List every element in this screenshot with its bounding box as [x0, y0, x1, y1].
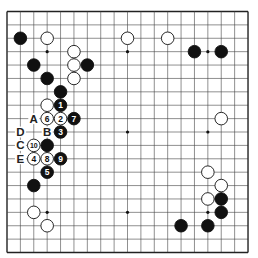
black-stone-move-5[interactable]: 5 — [41, 166, 54, 179]
white-stone-move-6[interactable]: 6 — [41, 112, 54, 125]
stone-disc — [68, 59, 81, 72]
stone-disc — [121, 32, 134, 45]
stone-disc — [68, 45, 81, 58]
point-marker-a[interactable]: A — [28, 113, 39, 125]
stone-disc — [202, 219, 215, 232]
stone-disc — [27, 59, 40, 72]
move-number: 7 — [72, 114, 77, 124]
white-stone[interactable] — [41, 32, 54, 45]
stone-disc — [81, 59, 94, 72]
white-stone-move-2[interactable]: 2 — [54, 112, 67, 125]
move-number: 3 — [58, 127, 63, 137]
black-stone[interactable] — [175, 219, 188, 232]
stone-disc — [41, 32, 54, 45]
black-stone[interactable] — [41, 72, 54, 85]
move-number: 8 — [45, 154, 50, 164]
marker-letter: C — [16, 139, 24, 151]
white-stone[interactable] — [68, 59, 81, 72]
white-stone[interactable] — [215, 112, 228, 125]
stone-disc — [27, 179, 40, 192]
star-point — [126, 130, 129, 133]
stone-disc — [175, 219, 188, 232]
stone-disc — [215, 179, 228, 192]
white-stone[interactable] — [27, 206, 40, 219]
black-stone-move-7[interactable]: 7 — [68, 112, 81, 125]
stone-disc — [41, 219, 54, 232]
white-stone[interactable] — [202, 166, 215, 179]
black-stone-move-9[interactable]: 9 — [54, 152, 67, 165]
move-number: 6 — [45, 114, 50, 124]
move-number: 4 — [31, 154, 36, 164]
marker-letter: A — [30, 113, 38, 125]
stone-disc — [202, 166, 215, 179]
white-stone[interactable] — [68, 45, 81, 58]
move-number: 5 — [45, 167, 50, 177]
black-stone-move-1[interactable]: 1 — [54, 99, 67, 112]
stone-disc — [14, 32, 27, 45]
black-stone[interactable] — [27, 179, 40, 192]
white-stone[interactable] — [161, 32, 174, 45]
star-point — [206, 50, 209, 53]
white-stone-move-10[interactable]: 10 — [27, 139, 40, 152]
star-point — [206, 211, 209, 214]
stone-disc — [215, 112, 228, 125]
move-number: 9 — [58, 154, 63, 164]
black-stone[interactable] — [215, 193, 228, 206]
go-board[interactable]: 12345678910 ABCDE — [0, 0, 258, 258]
stone-disc — [161, 32, 174, 45]
stone-disc — [215, 206, 228, 219]
black-stone[interactable] — [27, 59, 40, 72]
stone-disc — [54, 86, 67, 99]
move-number: 1 — [58, 100, 63, 110]
star-point — [126, 211, 129, 214]
point-marker-d[interactable]: D — [15, 126, 26, 138]
star-point — [46, 211, 49, 214]
white-stone[interactable] — [41, 219, 54, 232]
white-stone[interactable] — [121, 32, 134, 45]
star-point — [46, 50, 49, 53]
stone-disc — [215, 45, 228, 58]
black-stone[interactable] — [41, 139, 54, 152]
white-stone-move-4[interactable]: 4 — [27, 152, 40, 165]
marker-letter: B — [43, 126, 51, 138]
black-stone[interactable] — [81, 59, 94, 72]
point-marker-c[interactable]: C — [15, 139, 26, 151]
point-marker-b[interactable]: B — [42, 126, 53, 138]
black-stone[interactable] — [14, 32, 27, 45]
point-marker-e[interactable]: E — [15, 153, 26, 165]
black-stone[interactable] — [202, 219, 215, 232]
black-stone[interactable] — [188, 45, 201, 58]
white-stone-move-8[interactable]: 8 — [41, 152, 54, 165]
stone-disc — [41, 72, 54, 85]
marker-letter: D — [16, 126, 24, 138]
marker-letter: E — [17, 153, 25, 165]
move-number: 10 — [30, 142, 38, 149]
stone-disc — [202, 193, 215, 206]
black-stone[interactable] — [54, 86, 67, 99]
white-stone[interactable] — [41, 99, 54, 112]
black-stone[interactable] — [215, 206, 228, 219]
white-stone[interactable] — [202, 193, 215, 206]
white-stone[interactable] — [68, 72, 81, 85]
stone-disc — [188, 45, 201, 58]
star-point — [206, 130, 209, 133]
black-stone-move-3[interactable]: 3 — [54, 126, 67, 139]
move-number: 2 — [58, 114, 63, 124]
stone-disc — [27, 206, 40, 219]
black-stone[interactable] — [215, 45, 228, 58]
stone-disc — [41, 99, 54, 112]
white-stone[interactable] — [215, 179, 228, 192]
star-point — [126, 50, 129, 53]
stone-disc — [41, 139, 54, 152]
stone-disc — [215, 193, 228, 206]
stone-disc — [68, 72, 81, 85]
